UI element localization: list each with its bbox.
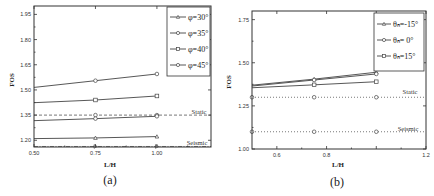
chart-a-svg: 1.201.351.501.651.801.95 0.500.751.00 FO… — [0, 0, 217, 196]
chart-b-svg: 1.001.251.501.75 0.60.81.2 FOS L/H (b) S… — [217, 0, 434, 196]
chart-a-legend: φ=30°φ=35°φ=40°φ=45° — [167, 7, 210, 76]
y-tick-label: 1.50 — [20, 87, 31, 93]
x-tick-label: 0.8 — [323, 152, 331, 158]
circle-marker-icon — [374, 130, 378, 134]
y-tick-label: 1.20 — [20, 137, 31, 143]
chart-a-seismic-label: Seismic — [187, 139, 208, 146]
chart-a-x-ticks: 0.500.751.00 — [29, 6, 188, 156]
x-tick-label: 0.75 — [90, 150, 101, 156]
chart-b-legend: θₕ=-15°θₕ= 0°θₕ=15° — [374, 13, 424, 71]
circle-marker-icon — [382, 38, 385, 41]
y-tick-label: 1.50 — [238, 60, 249, 66]
y-tick-label: 1.65 — [20, 62, 31, 68]
legend-label: θₕ=-15° — [393, 20, 418, 29]
y-tick-label: 1.80 — [20, 37, 31, 43]
circle-marker-icon — [312, 78, 316, 82]
square-marker-icon — [176, 47, 179, 50]
chart-a-static-label: Static — [192, 108, 207, 115]
y-tick-label: 1.95 — [20, 11, 31, 17]
square-marker-icon — [374, 80, 378, 84]
y-tick-label: 1.35 — [20, 112, 31, 118]
legend-label: θₕ= 0° — [393, 36, 414, 45]
circle-marker-icon — [176, 63, 179, 66]
legend-label: φ=40° — [188, 45, 208, 54]
y-tick-label: 1.75 — [238, 17, 249, 23]
legend-label: φ=45° — [188, 61, 208, 70]
chart-a-y-axis-title: FOS — [8, 73, 16, 87]
square-marker-icon — [94, 98, 98, 102]
chart-b-static-label: Static — [403, 88, 418, 95]
circle-marker-icon — [94, 113, 98, 117]
legend-label: φ=30° — [188, 13, 208, 22]
x-tick-label: 1.2 — [422, 152, 430, 158]
chart-panel-a: 1.201.351.501.651.801.95 0.500.751.00 FO… — [0, 0, 217, 196]
chart-b-seismic-label: Seismic — [398, 125, 419, 132]
triangle-marker-icon — [155, 135, 159, 138]
chart-b-x-axis-title: L/H — [332, 161, 345, 169]
circle-marker-icon — [312, 130, 316, 134]
x-tick-label: 0.6 — [273, 152, 281, 158]
x-tick-label: 0.50 — [29, 150, 40, 156]
chart-a-plot-area — [34, 72, 211, 148]
circle-marker-icon — [374, 72, 378, 76]
chart-a-caption: (a) — [103, 173, 116, 187]
circle-marker-icon — [176, 31, 179, 34]
chart-a-x-axis-title: L/H — [104, 161, 117, 169]
circle-marker-icon — [155, 72, 159, 76]
circle-marker-icon — [94, 79, 98, 83]
y-tick-label: 1.00 — [238, 146, 249, 152]
circle-marker-icon — [374, 95, 378, 99]
square-marker-icon — [312, 83, 316, 87]
chart-b-y-axis-title: FOS — [225, 75, 233, 89]
circle-marker-icon — [94, 117, 98, 121]
circle-marker-icon — [312, 95, 316, 99]
x-tick-label: 1.00 — [152, 150, 163, 156]
legend-label: θₕ=15° — [393, 52, 416, 61]
circle-marker-icon — [155, 114, 159, 118]
y-tick-label: 1.25 — [238, 103, 249, 109]
triangle-marker-icon — [94, 136, 98, 139]
legend-label: φ=35° — [188, 29, 208, 38]
square-marker-icon — [155, 94, 159, 98]
square-marker-icon — [382, 54, 385, 57]
chart-panel-b: 1.001.251.501.75 0.60.81.2 FOS L/H (b) S… — [217, 0, 434, 196]
chart-b-caption: (b) — [330, 175, 344, 189]
